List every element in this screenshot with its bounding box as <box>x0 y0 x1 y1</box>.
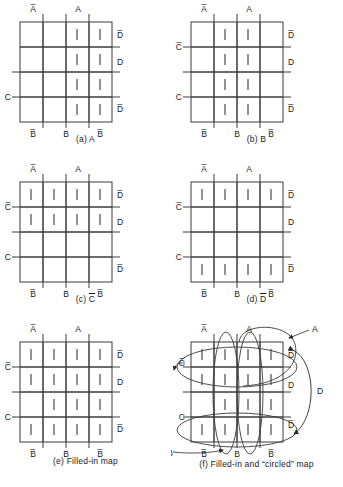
label-bottom-bbar-left: B̅ <box>201 449 207 459</box>
label-right-d: D <box>117 57 123 67</box>
label-left-cbar: C̅ <box>176 202 182 212</box>
label-top-abar: A̅ <box>30 164 36 174</box>
caption-b: (b) B <box>171 134 342 144</box>
caption-d: (d) D <box>171 294 342 304</box>
label-left-c: C <box>5 252 11 262</box>
kmap-panel-e: A̅ A B̅ B B̅ D̅ D D̅ C̅ C (e) Filled-in … <box>0 320 171 487</box>
label-right-dbar-top: D̅ <box>288 190 294 200</box>
caption-c-term: C <box>89 294 95 304</box>
label-left-c: C <box>176 92 182 102</box>
kmap-e-diagram: A̅ A B̅ B B̅ D̅ D D̅ C̅ C <box>0 320 171 462</box>
caption-d-term: D <box>260 294 266 304</box>
loop-b-vertical-2 <box>237 332 263 454</box>
kmap-panel-c: A̅ A B̅ B B̅ D̅ D D̅ C̅ C (c) C <box>0 160 171 316</box>
label-left-cbar: C̅ <box>176 42 182 52</box>
caption-a: (a) A <box>0 134 171 144</box>
label-top-a: A <box>75 4 81 14</box>
label-right-dbar-top: D̅ <box>117 30 123 40</box>
figure-sheet: A̅ A B̅ B B̅ D̅ D D̅ C (a) A <box>0 0 343 487</box>
kmap-panel-f: A̅ A B̅ B B̅ D̅ D D̅ C̅ C A D B <box>171 320 342 487</box>
label-right-d: D <box>288 57 294 67</box>
label-right-dbar-top: D̅ <box>288 350 294 360</box>
loop-b-vertical <box>213 332 239 454</box>
kmap-a-diagram: A̅ A B̅ B B̅ D̅ D D̅ C <box>0 0 171 140</box>
label-right-dbar-top: D̅ <box>117 190 123 200</box>
kmap-panel-b: A̅ A B̅ B B̅ D̅ D D̅ C̅ C (b) B <box>171 0 342 156</box>
kmap-c-diagram: A̅ A B̅ B B̅ D̅ D D̅ C̅ C <box>0 160 171 300</box>
label-left-c: C <box>5 92 11 102</box>
label-left-c: C <box>176 252 182 262</box>
kmap-panel-d: A̅ A B̅ B B̅ D̅ D D̅ C̅ C (d) D <box>171 160 342 316</box>
label-top-a: A <box>75 164 81 174</box>
label-left-cbar: C̅ <box>179 358 185 368</box>
label-left-cbar: C̅ <box>5 202 11 212</box>
label-top-a: A <box>246 4 252 14</box>
caption-f: (f) Filled-in and “circled” map <box>171 459 342 469</box>
callout-label-d: D <box>317 386 323 396</box>
label-top-a: A <box>246 164 252 174</box>
label-left-c: C <box>179 412 185 422</box>
label-right-d: D <box>117 217 123 227</box>
kmap-d-diagram: A̅ A B̅ B B̅ D̅ D D̅ C̅ C <box>171 160 342 300</box>
label-right-dbar-bottom: D̅ <box>117 104 123 114</box>
label-right-dbar-bottom: D̅ <box>288 420 294 430</box>
label-top-abar: A̅ <box>201 324 207 334</box>
label-right-d: D <box>288 380 294 390</box>
callout-label-b: B <box>171 448 173 458</box>
label-top-abar: A̅ <box>201 164 207 174</box>
label-top-abar: A̅ <box>201 4 207 14</box>
callout-line-b <box>173 450 223 453</box>
label-bottom-b: B <box>234 449 240 459</box>
label-right-d: D <box>288 217 294 227</box>
label-top-a: A <box>75 324 81 334</box>
label-right-dbar-bottom: D̅ <box>288 104 294 114</box>
label-left-c: C <box>5 412 11 422</box>
kmap-b-diagram: A̅ A B̅ B B̅ D̅ D D̅ C̅ C <box>171 0 342 140</box>
caption-e: (e) Filled-in map <box>0 456 171 466</box>
label-right-dbar-bottom: D̅ <box>288 264 294 274</box>
callout-line-a <box>289 330 309 338</box>
caption-c: (c) C <box>0 294 171 304</box>
label-right-dbar-bottom: D̅ <box>117 264 123 274</box>
label-left-cbar: C̅ <box>5 362 11 372</box>
callout-label-a: A <box>312 324 318 334</box>
label-top-abar: A̅ <box>30 4 36 14</box>
label-top-abar: A̅ <box>30 324 36 334</box>
label-right-dbar-bottom: D̅ <box>117 424 123 434</box>
label-top-a: A <box>246 324 252 334</box>
label-right-d: D <box>117 377 123 387</box>
kmap-f-diagram: A̅ A B̅ B B̅ D̅ D D̅ C̅ C A D B <box>171 320 342 465</box>
label-bottom-bbar-right: B̅ <box>268 449 274 459</box>
label-right-dbar-top: D̅ <box>117 350 123 360</box>
kmap-panel-a: A̅ A B̅ B B̅ D̅ D D̅ C (a) A <box>0 0 171 156</box>
label-right-dbar-top: D̅ <box>288 30 294 40</box>
